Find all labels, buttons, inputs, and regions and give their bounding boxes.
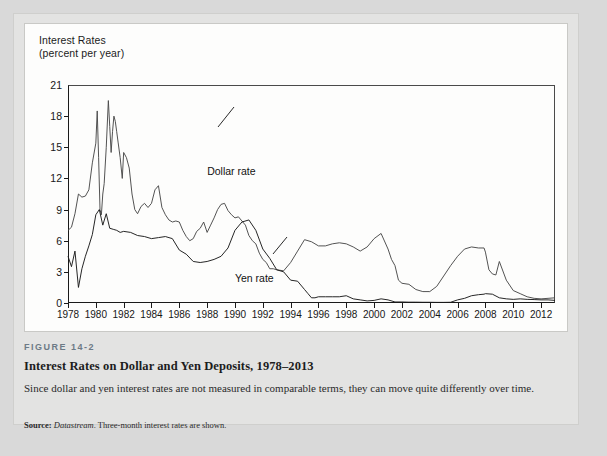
page-background: Interest Rates (percent per year) 036912… — [0, 0, 607, 456]
x-tick-label: 1992 — [252, 309, 274, 320]
x-tick-label: 1984 — [140, 309, 162, 320]
x-tick-label: 2000 — [363, 309, 385, 320]
x-tick-mark — [318, 303, 319, 308]
y-tick-label: 21 — [50, 79, 62, 91]
x-tick-mark — [179, 303, 180, 308]
annotation-leader-lines — [68, 85, 555, 303]
source-note: . Three-month interest rates are shown. — [94, 420, 227, 430]
x-tick-label: 2012 — [530, 309, 552, 320]
y-tick-label: 12 — [50, 172, 62, 184]
figure-caption: FIGURE 14-2 Interest Rates on Dollar and… — [24, 342, 568, 396]
x-tick-label: 1990 — [224, 309, 246, 320]
y-tick-label: 15 — [50, 141, 62, 153]
x-tick-mark — [402, 303, 403, 308]
x-tick-mark — [541, 303, 542, 308]
x-tick-label: 1978 — [57, 309, 79, 320]
x-tick-mark — [291, 303, 292, 308]
source-name: Datastream — [54, 420, 94, 430]
x-tick-label: 1988 — [196, 309, 218, 320]
x-tick-label: 1980 — [85, 309, 107, 320]
x-tick-mark — [235, 303, 236, 308]
figure-block: Interest Rates (percent per year) 036912… — [14, 14, 578, 424]
x-tick-mark — [263, 303, 264, 308]
x-tick-mark — [374, 303, 375, 308]
y-tick-label: 3 — [56, 266, 62, 278]
x-tick-label: 1982 — [113, 309, 135, 320]
yen-rate-label: Yen rate — [235, 272, 274, 284]
y-tick-label: 9 — [56, 204, 62, 216]
x-tick-label: 1994 — [280, 309, 302, 320]
figure-number: FIGURE 14-2 — [24, 342, 568, 352]
x-tick-mark — [68, 303, 69, 308]
figure-description: Since dollar and yen interest rates are … — [24, 381, 548, 396]
x-tick-label: 1998 — [335, 309, 357, 320]
x-tick-mark — [124, 303, 125, 308]
x-tick-mark — [458, 303, 459, 308]
x-tick-label: 2004 — [419, 309, 441, 320]
chart-card: Interest Rates (percent per year) 036912… — [24, 23, 568, 332]
x-tick-mark — [151, 303, 152, 308]
x-tick-mark — [485, 303, 486, 308]
x-tick-label: 2006 — [446, 309, 468, 320]
x-tick-mark — [430, 303, 431, 308]
y-tick-label: 0 — [56, 297, 62, 309]
x-tick-label: 1986 — [168, 309, 190, 320]
x-tick-mark — [207, 303, 208, 308]
plot-area: 036912151821 197819801982198419861988199… — [68, 85, 555, 303]
y-tick-label: 18 — [50, 110, 62, 122]
x-tick-label: 2008 — [474, 309, 496, 320]
x-tick-label: 2002 — [391, 309, 413, 320]
y-tick-label: 6 — [56, 235, 62, 247]
axis-title: Interest Rates (percent per year) — [39, 34, 124, 60]
source-label: Source: — [24, 420, 52, 430]
dollar-rate-label: Dollar rate — [207, 165, 255, 177]
x-tick-label: 1996 — [307, 309, 329, 320]
figure-title: Interest Rates on Dollar and Yen Deposit… — [24, 359, 568, 374]
x-tick-mark — [513, 303, 514, 308]
figure-source: Source: Datastream. Three-month interest… — [24, 420, 226, 430]
x-tick-mark — [96, 303, 97, 308]
x-tick-label: 2010 — [502, 309, 524, 320]
x-tick-mark — [346, 303, 347, 308]
